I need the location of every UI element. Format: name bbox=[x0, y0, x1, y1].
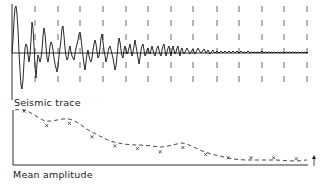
seismic-diagram bbox=[0, 0, 320, 186]
mean-amplitude-label: Mean amplitude bbox=[13, 169, 93, 180]
seismic-trace-label: Seismic trace bbox=[14, 97, 81, 108]
time-arrow-icon bbox=[312, 155, 316, 166]
seismic-trace-waveform bbox=[12, 6, 308, 89]
mean-amplitude-markers bbox=[23, 110, 298, 161]
mean-amplitude-curve bbox=[15, 110, 307, 161]
time-window-lines bbox=[35, 6, 307, 86]
